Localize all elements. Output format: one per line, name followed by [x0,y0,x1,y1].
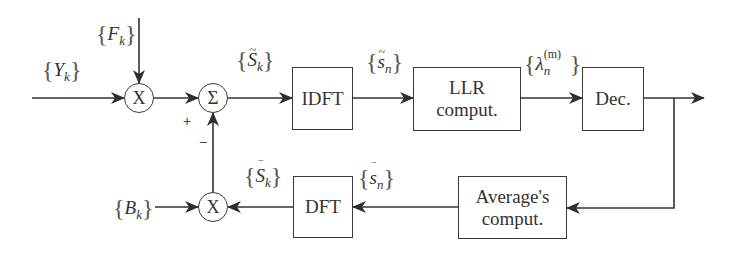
block-label-line2: comput. [436,99,498,121]
signal-label-f: {Fk} [96,22,136,47]
signal-label-lambda: {λ(m)n} [524,52,581,76]
block-label-line1: Average's [476,186,550,208]
block-llr: LLR comput. [413,67,521,131]
signal-label-s-bar-k: {‾Sk} [244,164,282,189]
signal-label-s-tilde-k: {~Sk} [236,48,274,73]
multiply-symbol: X [207,197,220,218]
plus-sign: + [183,114,191,128]
signal-label-s-bar-n: {‾sn} [358,166,395,191]
sigma-symbol: Σ [207,87,218,109]
block-dft: DFT [293,176,353,238]
block-label: DFT [305,196,341,218]
block-dec: Dec. [582,67,644,131]
signal-label-b: {Bk} [113,196,153,221]
multiplier-bottom: X [198,192,228,222]
minus-sign: − [199,135,207,149]
summer: Σ [198,83,228,113]
signal-label-y: {Yk} [42,58,81,83]
signal-label-s-tilde-n: {~sn} [366,50,403,75]
block-label: Dec. [595,88,630,110]
multiply-symbol: X [133,88,146,109]
block-average: Average's comput. [458,176,567,239]
block-label: IDFT [301,88,343,110]
multiplier-top: X [124,83,154,113]
block-label-line2: comput. [482,208,544,230]
block-label-line1: LLR [449,77,485,99]
block-idft: IDFT [292,67,353,130]
